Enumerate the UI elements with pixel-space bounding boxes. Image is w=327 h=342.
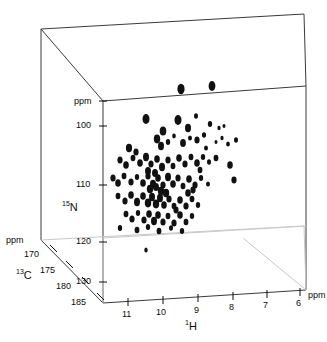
c-tick-label-175: 175 [40,266,55,275]
spectrum-peak [144,247,147,252]
c-tick-label-170: 170 [24,250,39,259]
spectrum-peak [163,189,169,197]
spectrum-peak [172,134,176,139]
cube-edge-floor-inner-diagonal [243,238,306,290]
spectrum-peak [141,216,146,223]
spectrum-peaks [110,81,238,253]
spectrum-peak [185,189,191,197]
h-tick-label-8: 8 [229,303,234,312]
spectrum-peak [184,219,189,225]
spectrum-peak [154,155,160,163]
spectrum-peak [160,218,165,225]
spectrum-peak [217,126,220,130]
spectrum-peak [186,175,192,183]
spectrum-peak [118,225,122,231]
c-tick-label-180: 180 [56,282,71,291]
spectrum-peak [159,163,165,171]
spectrum-peak [220,136,223,140]
spectrum-peak [199,175,203,181]
spectrum-peak [136,210,140,216]
spectrum-peak [146,224,150,230]
spectrum-peak [155,211,161,219]
c-axis-ticks [50,245,104,300]
n-axis-isotope: 15 [62,200,70,207]
spectrum-peak [143,114,150,124]
n-axis-element: N [70,201,78,213]
spectrum-peak [133,148,138,155]
spectrum-peak [176,154,182,162]
spectrum-peak [158,142,164,150]
h-tick-label-11: 11 [122,310,131,319]
spectrum-peak [145,167,151,175]
spectrum-peak [204,145,208,150]
spectrum-peak [157,194,163,202]
nmr-3d-spectrum-figure: ppm 100 110 120 130 15N ppm 170 175 180 … [0,0,327,342]
spectrum-peak [234,137,238,143]
spectrum-peak [207,159,211,165]
cube-wireframe [41,14,306,303]
spectrum-peak [227,161,233,169]
spectrum-peak [153,183,159,191]
spectrum-peak [201,154,205,160]
spectrum-peak [128,191,134,199]
n-axis-title: 15N [62,200,78,213]
c-tick-170 [50,245,57,252]
cube-edge-diagonal-top-right [304,14,306,86]
spectrum-peak [122,173,127,179]
spectrum-peak [194,159,200,167]
spectrum-peak [196,202,200,208]
cube-edge-diagonal-top-left [41,29,103,101]
spectrum-peak [157,228,162,234]
n-tick-label-120: 120 [76,237,91,246]
h-tick-label-6: 6 [296,299,301,308]
spectrum-peak [181,183,186,189]
cube-edge-front-top [103,86,306,101]
n-tick-label-100: 100 [76,121,91,130]
spectrum-peak [206,181,210,186]
spectrum-peak [175,174,180,181]
spectrum-peak [194,113,198,119]
spectrum-peak [160,126,167,135]
spectrum-peak [124,211,129,217]
spectrum-peak [137,159,143,167]
plot-canvas [0,0,327,342]
cube-edge-front-bottom [103,290,306,303]
spectrum-peak [189,154,194,160]
spectrum-peak [135,174,139,180]
spectrum-peak [117,156,122,163]
c-axis-unit-label: ppm [6,236,24,245]
spectrum-peak [215,140,218,144]
spectrum-peak [123,161,129,169]
spectrum-peak [140,192,146,200]
spectrum-peak [149,193,155,201]
spectrum-peak [226,141,230,146]
spectrum-peak [231,177,236,184]
h-axis-ticks [128,288,300,306]
spectrum-peak [190,213,194,219]
spectrum-peak [134,198,140,206]
n-tick-label-130: 130 [76,277,91,286]
spectrum-peak [171,163,176,169]
spectrum-peak [183,202,188,209]
h-axis-unit-label: ppm [308,291,326,300]
spectrum-peak [140,179,146,187]
spectrum-peak [154,135,160,144]
spectrum-peak [166,139,170,145]
spectrum-peak [177,211,183,219]
spectrum-peak [122,197,127,204]
spectrum-peak [166,213,171,219]
spectrum-peak [165,173,171,181]
spectrum-peak [147,185,153,193]
spectrum-peak [190,187,195,194]
spectrum-peak [190,196,195,202]
spectrum-peak [214,155,219,161]
spectrum-peak [128,178,133,185]
spectrum-peak [151,217,157,225]
spectrum-peak [208,121,212,127]
cube-edge-floor-left [103,226,306,238]
n-tick-label-110: 110 [76,180,90,189]
spectrum-peak [146,210,152,218]
spectrum-peak [188,135,192,140]
spectrum-peak [129,215,134,222]
spectrum-peak [110,174,115,181]
